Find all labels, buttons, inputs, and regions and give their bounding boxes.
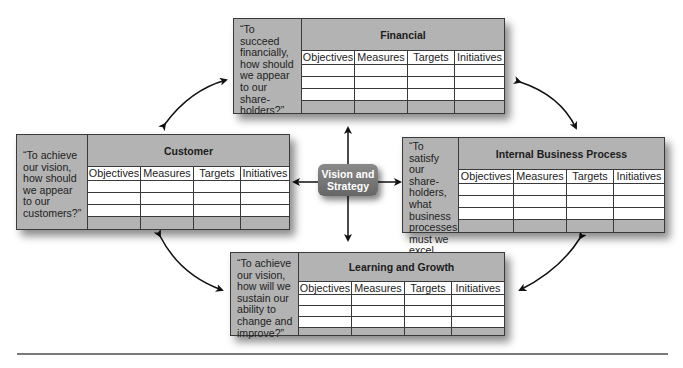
col-header-measures: Measures [514,170,567,184]
table-cell [514,184,567,196]
table-cell [567,220,614,232]
table-cell [299,317,352,328]
col-header-initiatives: Initiatives [614,170,664,184]
col-header-measures: Measures [352,282,405,295]
table-customer: Customer Objectives Measures Targets Ini… [88,135,289,229]
table-cell [352,328,405,335]
title-customer: Customer [88,135,289,166]
table-cell [514,220,567,232]
col-header-objectives: Objectives [459,170,514,184]
table-cell [455,77,504,89]
table-cell [299,295,352,306]
table-cell [452,328,504,335]
table-cell [302,101,355,113]
table-cell [459,208,514,220]
table-cell [405,306,452,317]
table-cell [141,181,194,193]
title-financial: Financial [302,19,504,50]
arrow-financial-internal [520,82,576,128]
title-internal: Internal Business Process [459,138,664,169]
table-cell [302,65,355,77]
col-header-targets: Targets [408,51,455,65]
vision-label-line2: Strategy [322,180,375,192]
arrow-internal-learning [520,238,580,290]
table-cell [194,181,241,193]
table-cell [241,217,289,229]
col-header-objectives: Objectives [302,51,355,65]
perspective-learning-and-growth: “To achieve our vision, how will we sust… [230,252,505,336]
table-cell [452,317,504,328]
table-cell [405,317,452,328]
arrow-customer-financial [165,80,226,124]
table-cell [567,196,614,208]
table-cell [408,89,455,101]
table-cell [614,196,664,208]
col-header-initiatives: Initiatives [455,51,504,65]
table-cell [352,317,405,328]
arrow-learning-customer [160,236,222,290]
col-header-targets: Targets [194,167,241,181]
table-cell [299,306,352,317]
table-cell [459,220,514,232]
table-cell [355,77,408,89]
table-cell [88,181,141,193]
bottom-divider [17,353,668,355]
table-cell [88,193,141,205]
table-cell [459,196,514,208]
table-cell [614,220,664,232]
table-cell [514,196,567,208]
table-cell [88,217,141,229]
table-cell [408,65,455,77]
table-learning: Learning and Growth Objectives Measures … [299,253,504,335]
table-cell [408,77,455,89]
table-cell [241,181,289,193]
table-cell [352,295,405,306]
table-cell [302,89,355,101]
table-cell [141,217,194,229]
col-header-targets: Targets [567,170,614,184]
table-cell [352,306,405,317]
table-cell [355,101,408,113]
col-header-objectives: Objectives [88,167,141,181]
quote-financial: “To succeed financially, how should we a… [234,19,302,113]
col-header-initiatives: Initiatives [452,282,504,295]
table-cell [455,89,504,101]
vision-and-strategy-box: Vision and Strategy [318,164,378,196]
table-financial: Financial Objectives Measures Targets In… [302,19,504,113]
title-learning: Learning and Growth [299,253,504,281]
table-cell [302,77,355,89]
table-cell [355,65,408,77]
perspective-financial: “To succeed financially, how should we a… [233,18,505,114]
table-cell [455,65,504,77]
quote-learning: “To achieve our vision, how will we sust… [231,253,299,335]
table-cell [514,208,567,220]
table-internal: Internal Business Process Objectives Mea… [459,138,664,232]
table-cell [405,328,452,335]
table-cell [88,205,141,217]
table-cell [241,205,289,217]
quote-customer: “To achieve our vision, how should we ap… [17,135,88,229]
table-cell [194,217,241,229]
col-header-measures: Measures [355,51,408,65]
col-header-objectives: Objectives [299,282,352,295]
table-cell [299,328,352,335]
table-cell [459,184,514,196]
table-cell [241,193,289,205]
table-cell [614,208,664,220]
table-cell [452,295,504,306]
perspective-internal-business-process: “To satisfy our share-holders, what busi… [402,137,665,233]
col-header-measures: Measures [141,167,194,181]
perspective-customer: “To achieve our vision, how should we ap… [16,134,290,230]
table-cell [141,205,194,217]
col-header-initiatives: Initiatives [241,167,289,181]
quote-internal: “To satisfy our share-holders, what busi… [403,138,459,232]
table-cell [567,208,614,220]
table-cell [408,101,455,113]
table-cell [141,193,194,205]
table-cell [455,101,504,113]
table-cell [405,295,452,306]
table-cell [194,205,241,217]
vision-label-line1: Vision and [322,168,375,180]
table-cell [614,184,664,196]
col-header-targets: Targets [405,282,452,295]
